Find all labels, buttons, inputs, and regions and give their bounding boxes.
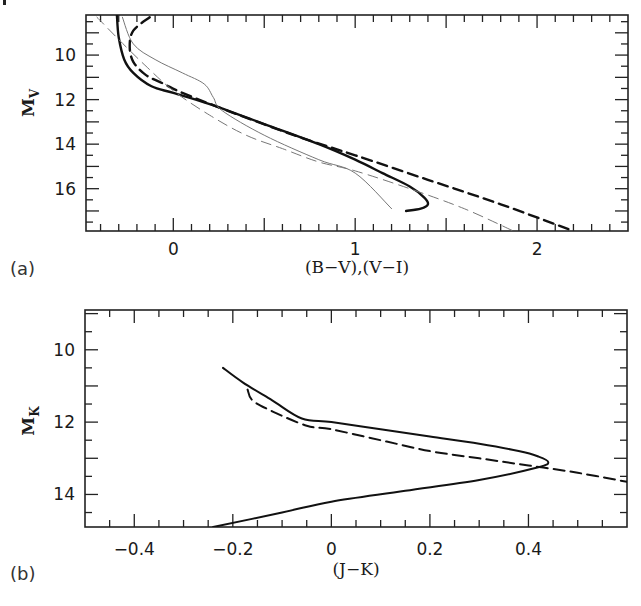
y-axis-title-subscript: V (28, 88, 42, 99)
series-line-dashed (248, 390, 627, 482)
x-tick-label: 0 (326, 539, 337, 559)
y-tick-label: 16 (54, 179, 76, 199)
series-line-thin-dashed (97, 17, 514, 231)
x-tick-label: 0 (168, 239, 179, 259)
axis-ticks (85, 310, 627, 527)
y-tick-label: 12 (54, 90, 76, 110)
y-tick-label: 10 (54, 45, 76, 65)
x-tick-label: −0.2 (212, 539, 253, 559)
axis-ticks (86, 15, 628, 231)
y-tick-label: 14 (54, 134, 76, 154)
x-axis-title: (B−V),(V−I) (305, 257, 409, 277)
plot-frame (85, 310, 627, 527)
figure-canvas: 01210121416(B−V),(V−I)MV(a) −0.4−0.200.2… (0, 0, 641, 606)
corner-mark (3, 0, 6, 5)
x-tick-label: 1 (350, 239, 361, 259)
series-line-thin-solid (122, 17, 391, 209)
y-axis-title: MK (18, 406, 42, 436)
y-axis-title-main: M (18, 417, 38, 436)
panel-b-chart: −0.4−0.200.20.4101214(J−K)MK(b) (10, 310, 627, 584)
x-axis-title: (J−K) (332, 559, 379, 579)
y-tick-label: 12 (53, 412, 75, 432)
series-line-heavy-dashed (130, 17, 574, 231)
x-tick-label: 0.4 (515, 539, 542, 559)
series-line-solid (213, 368, 548, 527)
x-tick-label: −0.4 (114, 539, 155, 559)
y-axis-title: MV (18, 88, 42, 117)
panel-label: (a) (10, 258, 35, 279)
y-axis-title-main: M (18, 98, 38, 117)
panel-label: (b) (10, 563, 35, 584)
series-group (97, 15, 574, 231)
x-tick-label: 2 (532, 239, 543, 259)
y-tick-label: 10 (53, 340, 75, 360)
series-group (213, 368, 627, 527)
panel-a-chart: 01210121416(B−V),(V−I)MV(a) (10, 15, 628, 279)
plot-frame (86, 15, 628, 231)
series-line-heavy-solid (117, 15, 428, 211)
y-axis-title-subscript: K (28, 406, 42, 417)
x-tick-label: 0.2 (416, 539, 443, 559)
y-tick-label: 14 (53, 484, 75, 504)
